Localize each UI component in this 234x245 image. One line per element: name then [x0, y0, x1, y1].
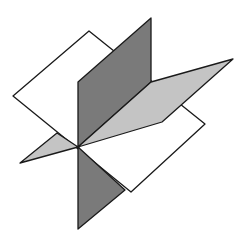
three-planes-diagram — [0, 0, 234, 245]
diagram-canvas — [0, 0, 234, 245]
intersection-point — [76, 145, 79, 148]
